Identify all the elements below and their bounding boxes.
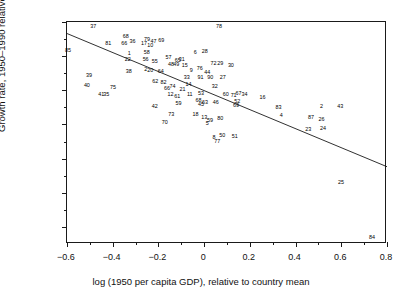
data-point-label: 74: [170, 84, 176, 89]
data-point-label: 18: [192, 112, 198, 117]
data-point-label: 76: [197, 66, 203, 71]
data-point-label: 4: [280, 114, 283, 119]
plot-area: 3785816866361227917104769585655382205765…: [66, 21, 386, 243]
data-point-label: 64: [158, 69, 164, 74]
y-tick-major: [62, 193, 67, 194]
y-tick-minor: [64, 142, 67, 143]
x-tick-label: 0.4: [288, 252, 301, 262]
data-point-label: 23: [305, 127, 311, 132]
x-tick-minor: [136, 242, 137, 245]
regression-line: [67, 22, 387, 244]
x-tick-label: 0.2: [243, 252, 256, 262]
x-tick-minor: [364, 242, 365, 245]
y-tick-minor: [64, 39, 67, 40]
x-tick-label: 0.8: [380, 252, 393, 262]
data-point-label: 53: [198, 91, 204, 96]
data-point-label: 40: [84, 84, 90, 89]
y-axis-title: Growth rate, 1950–1990 relative to count…: [0, 0, 7, 132]
data-point-label: 55: [152, 59, 158, 64]
data-point-label: 58: [144, 50, 150, 55]
x-tick-label: −0.2: [149, 252, 167, 262]
data-point-label: 15: [182, 63, 188, 68]
x-tick-major: [296, 242, 297, 247]
data-point-label: 87: [308, 116, 314, 121]
data-point-label: 90: [207, 75, 213, 80]
y-tick-minor: [64, 176, 67, 177]
data-point-label: 82: [160, 80, 166, 85]
data-point-label: 57: [165, 56, 171, 61]
x-tick-major: [204, 242, 205, 247]
y-tick-minor: [64, 107, 67, 108]
x-tick-major: [341, 242, 342, 247]
x-tick-minor: [181, 242, 182, 245]
data-point-label: 17: [141, 41, 147, 46]
y-tick-major: [62, 90, 67, 91]
y-tick-minor: [64, 73, 67, 74]
data-point-label: 72: [211, 61, 217, 66]
data-point-label: 61: [174, 94, 180, 99]
x-tick-major: [158, 242, 159, 247]
y-tick-major: [62, 22, 67, 23]
x-tick-major: [113, 242, 114, 247]
x-tick-label: 0.6: [334, 252, 347, 262]
data-point-label: 26: [318, 117, 324, 122]
data-point-label: 45: [198, 102, 204, 107]
data-point-label: 6: [194, 50, 197, 55]
data-point-label: 38: [126, 69, 132, 74]
data-point-label: 25: [338, 180, 344, 185]
data-point-label: 68: [123, 34, 129, 39]
data-point-label: 60: [223, 92, 229, 97]
data-point-label: 47: [150, 40, 156, 45]
data-point-label: 9: [190, 68, 193, 73]
data-point-label: 20: [147, 68, 153, 73]
data-point-label: 36: [130, 40, 136, 45]
data-point-label: 85: [65, 48, 71, 53]
data-point-label: 83: [275, 105, 281, 110]
data-point-label: 75: [110, 85, 116, 90]
data-point-label: 37: [90, 24, 96, 29]
data-point-label: 24: [320, 126, 326, 131]
x-tick-major: [387, 242, 388, 247]
data-point-label: 32: [212, 84, 218, 89]
data-point-label: 27: [220, 75, 226, 80]
data-point-label: 29: [217, 61, 223, 66]
x-tick-label: 0: [201, 252, 206, 262]
x-tick-label: −0.6: [57, 252, 75, 262]
data-point-label: 42: [152, 104, 158, 109]
data-point-label: 43: [337, 105, 343, 110]
data-point-label: 73: [168, 112, 174, 117]
data-point-label: 28: [202, 49, 208, 54]
x-tick-minor: [227, 242, 228, 245]
x-tick-minor: [273, 242, 274, 245]
data-point-label: 84: [369, 235, 375, 240]
data-point-label: 77: [214, 139, 220, 144]
data-point-label: 66: [121, 41, 127, 46]
x-tick-minor: [90, 242, 91, 245]
y-tick-major: [62, 159, 67, 160]
data-point-label: 34: [242, 92, 248, 97]
data-point-label: 69: [158, 38, 164, 43]
data-point-label: 69: [233, 103, 239, 108]
data-point-label: 80: [217, 117, 223, 122]
x-tick-label: −0.4: [103, 252, 121, 262]
y-tick-major: [62, 56, 67, 57]
data-point-label: 16: [259, 95, 265, 100]
data-point-label: 81: [105, 41, 111, 46]
data-point-label: 11: [187, 92, 193, 97]
data-point-label: 91: [197, 75, 203, 80]
data-point-label: 46: [213, 100, 219, 105]
data-point-label: 62: [152, 79, 158, 84]
x-axis-title: log (1950 per capita GDP), relative to c…: [0, 276, 402, 287]
data-point-label: 70: [162, 120, 168, 125]
data-point-label: 49: [173, 62, 179, 67]
data-point-label: 39: [86, 73, 92, 78]
data-point-label: 2: [320, 104, 323, 109]
data-point-label: 21: [179, 88, 185, 93]
data-point-label: 35: [103, 92, 109, 97]
data-point-label: 22: [125, 57, 131, 62]
data-point-label: 12: [168, 92, 174, 97]
data-point-label: 5: [206, 122, 209, 127]
y-tick-major: [62, 227, 67, 228]
x-tick-minor: [318, 242, 319, 245]
data-point-label: 67: [235, 91, 241, 96]
